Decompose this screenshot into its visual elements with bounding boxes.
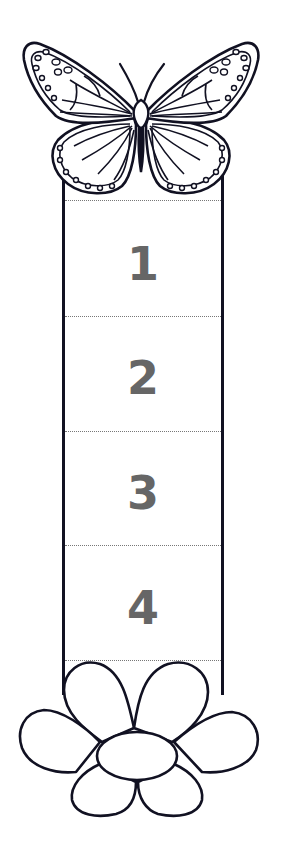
segment-number-2: 2 xyxy=(65,355,221,401)
butterfly-icon xyxy=(0,0,283,210)
segment-divider xyxy=(65,545,221,546)
segment-divider xyxy=(65,431,221,432)
reading-bookmark: 1 2 3 4 xyxy=(0,0,283,867)
segment-number-1: 1 xyxy=(65,241,221,287)
segment-divider xyxy=(65,660,221,661)
segment-number-3: 3 xyxy=(65,470,221,516)
segment-divider xyxy=(65,316,221,317)
segment-number-4: 4 xyxy=(65,585,221,631)
